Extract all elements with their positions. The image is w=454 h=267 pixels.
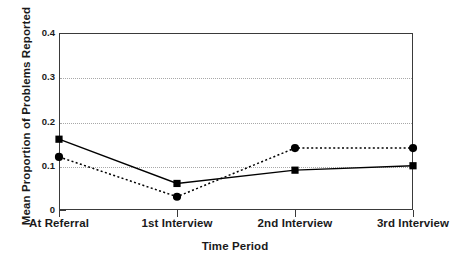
x-axis-tick-labels: At Referral1st Interview2nd Interview3rd… [0,217,432,235]
y-tick-label: 0.2 [29,117,55,127]
gridline [60,167,412,168]
x-axis-title: Time Period [56,240,414,252]
y-tick-label: 0.3 [29,72,55,82]
x-tick [413,210,414,217]
x-tick-label: 3rd Interview [358,217,454,229]
gridline [60,78,412,79]
x-tick-label: 2nd Interview [240,217,350,229]
x-tick-label: 1st Interview [122,217,232,229]
y-tick-label: 0.4 [29,28,55,38]
x-tick-label: At Referral [4,217,114,229]
y-tick-label: 0.1 [29,161,55,171]
x-tick [59,210,60,217]
x-tick [177,210,178,217]
x-tick [295,210,296,217]
plot-area [59,33,413,210]
gridline [60,123,412,124]
